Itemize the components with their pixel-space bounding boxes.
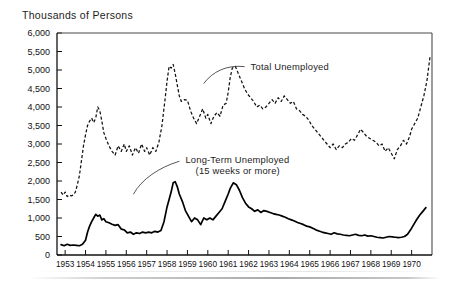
y-tick-label: 5,500: [27, 47, 50, 57]
x-tick-label: 1953: [56, 259, 75, 269]
x-tick-label: 1963: [260, 259, 279, 269]
y-tick-label: 3,500: [27, 121, 50, 131]
x-tick-label: 1955: [97, 259, 116, 269]
x-tick-label: 1956: [117, 259, 136, 269]
annotation-total-unemployed: Total Unemployed: [251, 61, 329, 72]
y-tick-label: 1,500: [27, 195, 50, 205]
y-tick-label: 4,000: [27, 102, 50, 112]
y-tick-label: 1,000: [27, 213, 50, 223]
x-tick-label: 1958: [158, 259, 177, 269]
annotation-long-term-unemployed-sub: (15 weeks or more): [196, 165, 280, 176]
y-axis-ticks: [57, 33, 62, 255]
x-tick-label: 1961: [219, 259, 238, 269]
x-tick-label: 1967: [341, 259, 360, 269]
annotation-long-term-unemployed: Long-Term Unemployed: [185, 154, 289, 165]
x-axis-labels: 1953195419551956195719581959196019611962…: [56, 259, 421, 269]
x-tick-label: 1964: [280, 259, 299, 269]
y-tick-label: 0: [45, 250, 50, 260]
y-tick-label: 2,000: [27, 176, 50, 186]
y-tick-label: 4,500: [27, 84, 50, 94]
x-axis-ticks: [65, 250, 411, 255]
y-axis-labels: 05001,0001,5002,0002,5003,0003,5004,0004…: [27, 28, 50, 260]
chart-canvas: 05001,0001,5002,0002,5003,0003,5004,0004…: [0, 0, 458, 289]
y-tick-label: 500: [35, 232, 50, 242]
scan-artifact-line: [28, 277, 440, 279]
x-tick-label: 1962: [239, 259, 258, 269]
y-tick-label: 2,500: [27, 158, 50, 168]
y-tick-label: 5,000: [27, 65, 50, 75]
series-total-unemployed: [61, 57, 430, 196]
x-tick-label: 1966: [321, 259, 340, 269]
x-tick-label: 1960: [199, 259, 218, 269]
x-tick-label: 1965: [300, 259, 319, 269]
x-tick-label: 1968: [362, 259, 381, 269]
x-tick-label: 1957: [137, 259, 156, 269]
x-tick-label: 1954: [76, 259, 95, 269]
y-tick-label: 6,000: [27, 28, 50, 38]
x-tick-label: 1969: [382, 259, 401, 269]
leader-line-total-unemployed: [204, 66, 245, 83]
chart-figure: Thousands of Persons 05001,0001,5002,000…: [0, 0, 458, 289]
x-tick-label: 1959: [178, 259, 197, 269]
x-tick-label: 1970: [402, 259, 421, 269]
y-tick-label: 3,000: [27, 139, 50, 149]
series-long-term-unemployed: [61, 182, 426, 246]
scan-artifact-upper: [30, 271, 438, 272]
